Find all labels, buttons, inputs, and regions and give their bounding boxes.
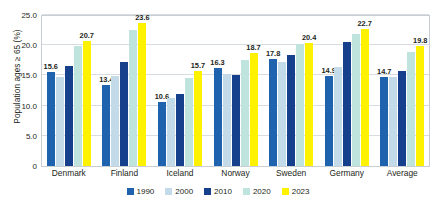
bar-value-label: 14.7: [377, 67, 391, 76]
y-axis-tick-label: 15.0: [3, 71, 37, 80]
y-axis-tick-label: 25.0: [3, 11, 37, 20]
bar-value-label: 17.8: [266, 49, 280, 58]
legend-item[interactable]: 2010: [204, 187, 232, 196]
bar: 14.9: [325, 76, 333, 166]
bar-group: 17.820.4: [263, 15, 319, 166]
bar-value-label: 19.8: [413, 36, 427, 45]
bar: 19.8: [416, 46, 424, 166]
legend-item[interactable]: 1990: [127, 187, 155, 196]
x-axis-tick-label: Average: [374, 168, 430, 178]
bar-value-label: 16.3: [210, 58, 224, 67]
legend-label: 1990: [137, 187, 155, 196]
bar: [167, 98, 175, 166]
legend-item[interactable]: 2020: [243, 187, 271, 196]
bar-value-label: 18.7: [246, 43, 260, 52]
x-axis-tick-labels: DenmarkFinlandIcelandNorwaySwedenGermany…: [41, 168, 430, 178]
x-axis-tick-label: Norway: [208, 168, 264, 178]
legend-swatch-icon: [282, 188, 289, 195]
bar: 20.4: [305, 43, 313, 166]
bar: [74, 46, 82, 166]
bar: [352, 34, 360, 166]
y-axis-tick-label: 10.0: [3, 101, 37, 110]
legend-swatch-icon: [204, 188, 211, 195]
bar: [407, 52, 415, 166]
x-axis-tick-label: Germany: [319, 168, 375, 178]
legend-item[interactable]: 2000: [165, 187, 193, 196]
bar-group: 13.423.6: [97, 15, 153, 166]
bar: 10.6: [158, 102, 166, 166]
bar: [278, 62, 286, 166]
legend-label: 2020: [253, 187, 271, 196]
bar: [120, 62, 128, 166]
bar: 23.6: [138, 23, 146, 166]
bar: [334, 67, 342, 166]
bar-group: 16.318.7: [208, 15, 264, 166]
bar: 16.3: [214, 68, 222, 166]
bar: [129, 30, 137, 167]
bar-value-label: 20.4: [302, 33, 316, 42]
bar: 13.4: [102, 85, 110, 166]
bar: [287, 55, 295, 166]
bar-value-label: 15.6: [44, 62, 58, 71]
legend-label: 2000: [175, 187, 193, 196]
bars-layer: 15.620.713.423.610.615.716.318.717.820.4…: [41, 15, 430, 166]
bar: [343, 42, 351, 166]
y-axis-tick-label: 0: [3, 162, 37, 171]
y-axis-tick-label: 5.0: [3, 131, 37, 140]
legend-label: 2010: [214, 187, 232, 196]
bar: [389, 77, 397, 166]
bar: 15.7: [194, 71, 202, 166]
bar-value-label: 20.7: [80, 31, 94, 40]
x-axis-tick-label: Finland: [97, 168, 153, 178]
bar: 18.7: [250, 53, 258, 166]
legend-swatch-icon: [243, 188, 250, 195]
bar: [111, 76, 119, 166]
bar: 17.8: [269, 59, 277, 167]
x-axis-tick-label: Sweden: [263, 168, 319, 178]
bar: [398, 71, 406, 166]
bar: [232, 75, 240, 166]
x-axis-tick-label: Iceland: [152, 168, 208, 178]
bar-group: 15.620.7: [41, 15, 97, 166]
bar-value-label: 23.6: [135, 13, 149, 22]
bar-value-label: 15.7: [191, 61, 205, 70]
legend-label: 2023: [292, 187, 310, 196]
bar: [185, 78, 193, 166]
bar-group: 14.719.8: [374, 15, 430, 166]
bar: [223, 74, 231, 166]
bar-group: 10.615.7: [152, 15, 208, 166]
x-axis-tick-label: Denmark: [41, 168, 97, 178]
bar: [56, 77, 64, 166]
bar: [176, 94, 184, 166]
bar: 22.7: [361, 29, 369, 166]
chart-legend: 19902000201020202023: [0, 187, 436, 196]
bar: 20.7: [83, 41, 91, 166]
legend-swatch-icon: [165, 188, 172, 195]
bar: [65, 66, 73, 166]
legend-swatch-icon: [127, 188, 134, 195]
legend-item[interactable]: 2023: [282, 187, 310, 196]
bar: [296, 44, 304, 166]
bar: 15.6: [47, 72, 55, 166]
bar-group: 14.922.7: [319, 15, 375, 166]
y-axis-tick-label: 20.0: [3, 41, 37, 50]
bar-value-label: 22.7: [357, 19, 371, 28]
grouped-bar-chart: Population ages ≥ 65 (%) 05.010.015.020.…: [0, 0, 436, 207]
bar: [241, 60, 249, 166]
bar: 14.7: [380, 77, 388, 166]
